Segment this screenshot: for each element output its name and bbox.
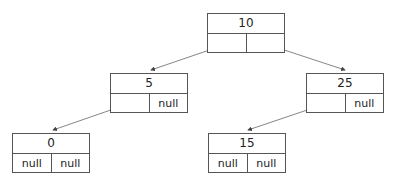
left-pointer xyxy=(208,34,247,53)
left-pointer: null xyxy=(209,154,248,173)
tree-node-0: 0 null null xyxy=(12,133,90,173)
right-pointer: null xyxy=(150,94,188,113)
node-value: 25 xyxy=(307,74,383,94)
left-pointer xyxy=(111,94,150,113)
right-pointer xyxy=(247,34,285,53)
tree-node-5: 5 null xyxy=(110,73,188,113)
tree-node-15: 15 null null xyxy=(208,133,286,173)
node-value: 15 xyxy=(209,134,285,154)
node-value: 5 xyxy=(111,74,187,94)
left-pointer: null xyxy=(13,154,52,173)
right-pointer: null xyxy=(346,94,384,113)
right-pointer: null xyxy=(248,154,286,173)
tree-node-25: 25 null xyxy=(306,73,384,113)
left-pointer xyxy=(307,94,346,113)
right-pointer: null xyxy=(52,154,90,173)
tree-node-10: 10 xyxy=(207,13,285,53)
node-value: 10 xyxy=(208,14,284,34)
node-value: 0 xyxy=(13,134,89,154)
